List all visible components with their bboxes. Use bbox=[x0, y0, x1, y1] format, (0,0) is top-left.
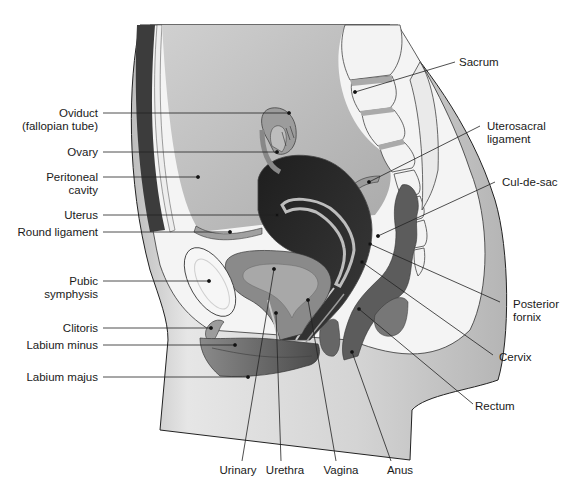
label-posterior-fornix: Posterior fornix bbox=[513, 298, 559, 324]
label-clitoris: Clitoris bbox=[63, 322, 98, 335]
label-pubic-symphysis: Pubic symphysis bbox=[44, 275, 98, 301]
label-sacrum: Sacrum bbox=[459, 56, 499, 69]
label-uterosacral-ligament: Uterosacral ligament bbox=[487, 120, 546, 146]
label-anus: Anus bbox=[387, 464, 413, 477]
label-labium-minus: Labium minus bbox=[26, 339, 98, 352]
label-cervix: Cervix bbox=[499, 351, 532, 364]
label-labium-majus: Labium majus bbox=[26, 371, 98, 384]
label-peritoneal-cavity: Peritoneal cavity bbox=[46, 171, 98, 197]
label-uterus: Uterus bbox=[64, 209, 98, 222]
label-cul-de-sac: Cul-de-sac bbox=[502, 176, 558, 189]
label-round-ligament: Round ligament bbox=[17, 226, 98, 239]
label-ovary: Ovary bbox=[67, 146, 98, 159]
label-oviduct: Oviduct (fallopian tube) bbox=[22, 107, 98, 133]
label-urinary: Urinary bbox=[219, 464, 256, 477]
label-vagina: Vagina bbox=[324, 464, 359, 477]
pelvis-illustration bbox=[0, 0, 573, 493]
label-rectum: Rectum bbox=[475, 400, 515, 413]
label-urethra: Urethra bbox=[266, 464, 304, 477]
